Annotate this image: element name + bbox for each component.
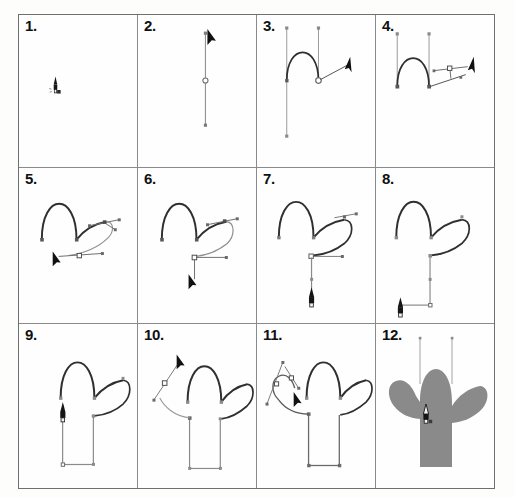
step-cell-6[interactable]: 6. xyxy=(138,168,257,324)
pen-tool-cursor xyxy=(60,402,65,422)
arrow-cursor xyxy=(345,57,352,72)
drag-line xyxy=(320,65,348,80)
arch-curve xyxy=(279,202,314,238)
open-anchor xyxy=(429,304,432,307)
anchor-point xyxy=(186,400,189,403)
anchor-point xyxy=(160,238,164,242)
anchor-point xyxy=(277,236,280,239)
anchor-point xyxy=(395,85,399,89)
anchor-point xyxy=(220,400,223,403)
anchor-point xyxy=(427,32,430,35)
anchor-point xyxy=(122,377,125,380)
two-verticals xyxy=(287,28,319,136)
arch-curve xyxy=(396,202,431,238)
step-cell-4[interactable]: 4. xyxy=(376,15,494,168)
step-art-12 xyxy=(376,324,494,488)
step-cell-8[interactable]: 8. xyxy=(376,168,494,324)
anchor-point xyxy=(428,254,432,258)
arch-curve xyxy=(42,204,77,240)
handle-bar-lower xyxy=(192,255,228,279)
anchor-point xyxy=(429,278,432,281)
arm-loop xyxy=(94,380,129,416)
tutorial-page: 1. 2. xyxy=(0,0,515,497)
open-anchor xyxy=(203,78,208,83)
step-cell-11[interactable]: 11. xyxy=(257,324,376,488)
anchor-point xyxy=(396,32,399,35)
step-art-1 xyxy=(19,15,137,167)
step-cell-2[interactable]: 2. xyxy=(138,15,257,168)
anchor-point xyxy=(219,417,222,420)
anchor-point xyxy=(395,236,398,239)
step-cell-1[interactable]: 1. xyxy=(19,15,138,168)
arm-loop xyxy=(221,384,253,419)
step-art-10 xyxy=(138,324,256,488)
step-art-3 xyxy=(257,15,375,167)
handle-points xyxy=(285,26,321,137)
anchor-point xyxy=(204,32,207,35)
cactus-filled xyxy=(389,369,488,467)
anchor-point xyxy=(204,124,207,127)
arrow-cursor xyxy=(468,57,475,73)
anchor-point xyxy=(305,396,308,399)
anchor-point xyxy=(459,76,462,79)
arch-curve xyxy=(397,58,429,86)
anchor-point xyxy=(460,215,463,218)
arm-top-curve xyxy=(340,380,366,398)
arm-top-curve xyxy=(431,220,462,238)
arrow-cursor xyxy=(177,354,185,369)
anchor-point xyxy=(339,396,342,399)
pen-tool-cursor xyxy=(309,287,314,307)
pen-tool-cursor xyxy=(49,77,60,94)
anchor-point xyxy=(92,463,95,466)
step-art-11 xyxy=(257,324,375,488)
square-handle xyxy=(289,376,293,380)
step-art-6 xyxy=(138,168,256,323)
anchor-point xyxy=(40,238,44,242)
step-cell-12[interactable]: 12. xyxy=(376,324,494,488)
step-art-4 xyxy=(376,15,494,167)
step-cell-7[interactable]: 7. xyxy=(257,168,376,324)
step-art-5 xyxy=(19,168,137,323)
arm-loop xyxy=(196,222,234,257)
anchor-point xyxy=(307,464,310,467)
step-art-9 xyxy=(19,324,137,488)
handle-bar xyxy=(152,364,177,401)
arch-curve xyxy=(307,362,341,398)
arch-curve xyxy=(287,52,319,80)
anchor-point xyxy=(310,278,313,281)
anchor-point xyxy=(338,464,341,467)
arm-loop xyxy=(340,380,372,415)
anchor-point xyxy=(312,236,315,239)
anchor-point xyxy=(59,396,62,399)
arrow-cursor xyxy=(189,274,197,289)
arm-top-curve xyxy=(221,384,247,402)
anchor-point xyxy=(451,337,454,340)
step-cell-3[interactable]: 3. xyxy=(257,15,376,168)
arrow-cursor xyxy=(207,29,216,45)
anchor-point xyxy=(188,467,191,470)
step-cell-9[interactable]: 9. xyxy=(19,324,138,488)
step-art-2 xyxy=(138,15,256,167)
arch-curve xyxy=(162,204,197,240)
step-art-8 xyxy=(376,168,494,323)
anchor-point xyxy=(93,396,96,399)
handle-bar-upper xyxy=(334,212,357,218)
arm-top-curve xyxy=(314,220,345,238)
pen-tool-cursor xyxy=(398,297,403,317)
step-cell-5[interactable]: 5. xyxy=(19,168,138,324)
arch-curve xyxy=(188,366,222,402)
step-cell-10[interactable]: 10. xyxy=(138,324,257,488)
handle-bar-upper xyxy=(88,218,121,231)
anchor-point xyxy=(419,337,422,340)
handle-bar xyxy=(433,66,468,79)
square-handle xyxy=(274,382,278,386)
arrow-cursor xyxy=(294,392,302,407)
step-art-7 xyxy=(257,168,375,323)
square-handle xyxy=(77,253,81,257)
left-arm-preview xyxy=(160,398,190,418)
anchor-point xyxy=(219,467,222,470)
square-handle xyxy=(448,66,452,70)
two-verticals xyxy=(397,34,429,87)
arch-curve xyxy=(61,362,95,398)
arm-top-curve xyxy=(77,222,107,240)
